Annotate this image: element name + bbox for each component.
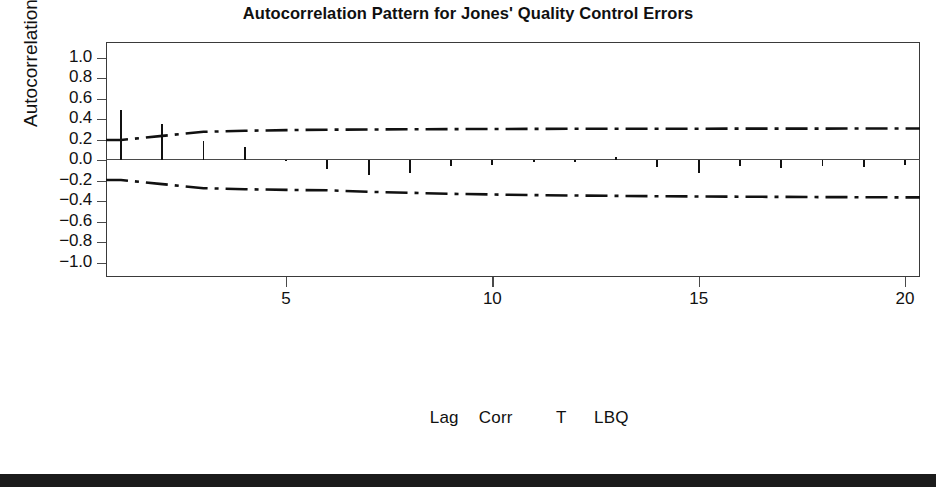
y-tick-label: −0.8	[59, 231, 92, 251]
y-tick-label: −0.2	[59, 170, 92, 190]
y-tick-mark	[97, 99, 106, 100]
bottom-bar	[0, 474, 936, 487]
y-tick-mark	[97, 222, 106, 223]
stats-table: LagCorrTLBQ 10.494.4120.2320.352.5430.30…	[399, 349, 629, 492]
y-tick-mark	[97, 58, 106, 59]
confidence-band-upper	[106, 129, 920, 141]
y-tick-mark	[97, 160, 106, 161]
spike-lag-5	[285, 160, 287, 161]
y-tick-label: −0.6	[59, 211, 92, 231]
spike-lag-18	[822, 160, 824, 166]
x-tick-label: 15	[683, 289, 715, 309]
spike-lag-4	[244, 147, 246, 160]
spike-lag-6	[326, 160, 328, 169]
y-tick-mark	[97, 119, 106, 120]
spike-lag-16	[739, 160, 741, 166]
y-tick-mark	[97, 242, 106, 243]
y-tick-mark	[97, 263, 106, 264]
spike-lag-17	[780, 160, 782, 168]
y-tick-label: 0.8	[69, 67, 92, 87]
y-tick-label: −0.4	[59, 190, 92, 210]
spike-lag-10	[491, 160, 493, 165]
x-tick-mark	[286, 277, 287, 287]
y-tick-label: 1.0	[69, 47, 92, 67]
confidence-bands	[106, 42, 920, 277]
x-tick-mark	[492, 277, 493, 287]
spike-lag-15	[698, 160, 700, 173]
spike-lag-11	[533, 160, 535, 162]
x-tick-mark	[905, 277, 906, 287]
x-tick-label: 5	[270, 289, 302, 309]
chart-title: Autocorrelation Pattern for Jones' Quali…	[0, 4, 936, 23]
spike-lag-8	[409, 160, 411, 173]
spike-lag-9	[450, 160, 452, 166]
y-axis-title: Autocorrelation	[20, 0, 42, 176]
spike-lag-2	[161, 124, 163, 160]
y-tick-label: 0.0	[69, 149, 92, 169]
header-lbq: LBQ	[567, 408, 629, 428]
y-tick-label: 0.6	[69, 88, 92, 108]
table-header-row: LagCorrTLBQ	[399, 388, 629, 447]
y-tick-label: −1.0	[59, 252, 92, 272]
x-tick-label: 10	[476, 289, 508, 309]
y-tick-label: 0.4	[69, 108, 92, 128]
header-corr: Corr	[459, 408, 513, 428]
y-tick-mark	[97, 181, 106, 182]
spike-lag-20	[904, 160, 906, 165]
spike-lag-19	[863, 160, 865, 167]
spike-lag-7	[368, 160, 370, 175]
spike-lag-12	[574, 160, 576, 162]
spike-lag-14	[656, 160, 658, 167]
y-tick-mark	[97, 201, 106, 202]
y-tick-mark	[97, 78, 106, 79]
spike-lag-1	[120, 110, 122, 160]
spike-lag-13	[615, 157, 617, 160]
x-tick-mark	[699, 277, 700, 287]
y-tick-mark	[97, 140, 106, 141]
header-t: T	[513, 408, 567, 428]
confidence-band-lower	[106, 180, 920, 197]
header-lag: Lag	[419, 408, 459, 428]
spike-lag-3	[203, 141, 205, 160]
x-tick-label: 20	[889, 289, 921, 309]
y-tick-label: 0.2	[69, 129, 92, 149]
